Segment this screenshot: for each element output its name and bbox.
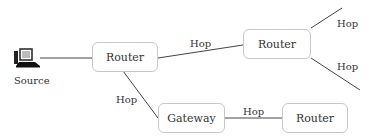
source-label: Source	[14, 75, 50, 86]
edge-label-router2-lower: Hop	[337, 62, 358, 72]
edge-label-router1-gateway: Hop	[116, 95, 137, 105]
node-router-1[interactable]: Router	[92, 42, 158, 72]
node-label: Router	[258, 38, 296, 51]
node-label: Router	[106, 51, 144, 64]
edge-label-router2-upper: Hop	[337, 19, 358, 29]
computer-icon	[13, 48, 43, 70]
network-diagram: Source Router Router Gateway Router Hop …	[0, 0, 373, 140]
node-label: Gateway	[167, 112, 215, 125]
node-label: Router	[296, 112, 334, 125]
node-gateway[interactable]: Gateway	[158, 103, 225, 133]
edge-label-gateway-router3: Hop	[243, 107, 264, 117]
node-router-3[interactable]: Router	[282, 103, 348, 133]
node-router-2[interactable]: Router	[243, 29, 311, 59]
edge-label-router1-router2: Hop	[190, 39, 211, 49]
